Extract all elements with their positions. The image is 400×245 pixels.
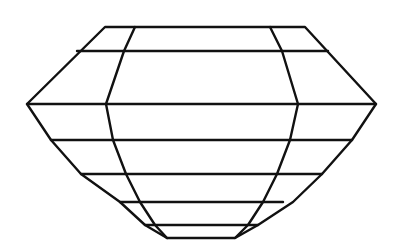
gem-diagram [0,0,400,245]
facet-horizontal-lines [27,51,376,225]
gem-outline [27,27,376,238]
facet-inner-left-edge [106,27,167,238]
